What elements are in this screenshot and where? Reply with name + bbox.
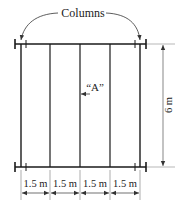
spacing-dimensions: 1.5 m 1.5 m 1.5 m 1.5 m xyxy=(21,170,140,200)
columns-label: Columns xyxy=(61,6,105,20)
spacing-label: 1.5 m xyxy=(83,178,107,189)
top-beam xyxy=(15,39,175,49)
columns-callout: Columns xyxy=(21,6,140,40)
floor-framing-diagram: Columns “A” 6 m xyxy=(0,0,185,212)
callout-a-label: “A” xyxy=(86,81,104,93)
spacing-label: 1.5 m xyxy=(24,178,48,189)
bottom-beam xyxy=(15,162,175,172)
spacing-label: 1.5 m xyxy=(53,178,77,189)
columns-leader-left xyxy=(21,13,58,40)
columns-leader-right xyxy=(106,13,140,40)
height-dimension: 6 m xyxy=(163,45,174,166)
joists xyxy=(21,44,140,167)
height-dimension-label: 6 m xyxy=(163,97,174,113)
spacing-label: 1.5 m xyxy=(113,178,137,189)
callout-a: “A” xyxy=(81,81,104,94)
